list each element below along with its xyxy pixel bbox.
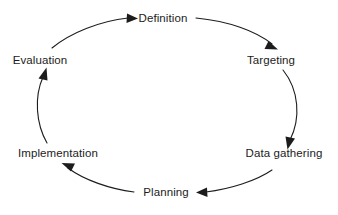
stage-label-targeting: Targeting [247,54,295,67]
stage-label-planning: Planning [143,186,189,199]
stage-label-data-gathering: Data gathering [246,147,323,160]
arrow-planning-to-implementation [62,163,135,192]
stage-label-definition: Definition [139,12,188,25]
arrow-implementation-to-evaluation [37,68,47,144]
arrow-definition-to-targeting [196,18,278,50]
arrow-data-gathering-to-planning [196,170,272,197]
arrow-targeting-to-data-gathering [283,70,297,150]
arrow-evaluation-to-definition [52,14,138,49]
cycle-arrows-svg [0,0,338,215]
stage-label-implementation: Implementation [18,147,98,160]
cycle-diagram: Definition Targeting Data gathering Plan… [0,0,338,215]
stage-label-evaluation: Evaluation [13,54,68,67]
